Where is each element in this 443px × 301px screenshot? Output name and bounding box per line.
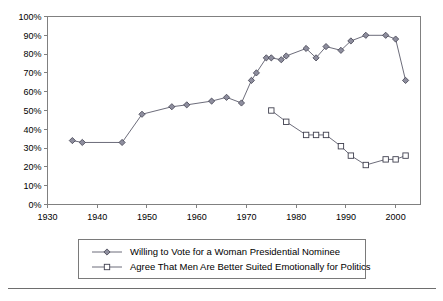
data-point-marker xyxy=(338,144,343,149)
legend-marker xyxy=(104,264,109,269)
data-point-marker xyxy=(403,153,408,158)
data-point-marker xyxy=(303,132,308,137)
data-point-marker xyxy=(269,108,274,113)
legend-label: Willing to Vote for a Woman Presidential… xyxy=(130,246,340,257)
x-tick-label: 1960 xyxy=(187,212,207,222)
x-tick-label: 1940 xyxy=(87,212,107,222)
y-tick-label: 60% xyxy=(23,87,41,97)
y-tick-label: 70% xyxy=(23,68,41,78)
y-tick-label: 30% xyxy=(23,143,41,153)
legend-entry-2: Agree That Men Are Better Suited Emotion… xyxy=(92,261,371,272)
legend-label: Agree That Men Are Better Suited Emotion… xyxy=(130,261,371,272)
data-point-marker xyxy=(323,132,328,137)
data-point-marker xyxy=(313,132,318,137)
y-tick-label: 0% xyxy=(28,200,41,210)
y-tick-label: 50% xyxy=(23,106,41,116)
y-tick-label: 40% xyxy=(23,125,41,135)
chart-figure: 0%10%20%30%40%50%60%70%80%90%100% 193019… xyxy=(0,0,443,301)
y-tick-label: 90% xyxy=(23,31,41,41)
data-point-marker xyxy=(284,119,289,124)
legend-entry-1: Willing to Vote for a Woman Presidential… xyxy=(92,246,340,257)
x-tick-label: 1980 xyxy=(286,212,306,222)
legend-box xyxy=(79,240,366,279)
x-tick-label: 1990 xyxy=(336,212,356,222)
data-point-marker xyxy=(363,162,368,167)
data-point-marker xyxy=(348,153,353,158)
x-tick-label: 1970 xyxy=(236,212,256,222)
x-tick-label: 1950 xyxy=(137,212,157,222)
x-tick-label: 2000 xyxy=(386,212,406,222)
data-point-marker xyxy=(393,157,398,162)
legend: Willing to Vote for a Woman Presidential… xyxy=(79,240,371,279)
x-tick-label: 1930 xyxy=(37,212,57,222)
y-tick-label: 80% xyxy=(23,49,41,59)
y-tick-label: 100% xyxy=(18,12,41,22)
y-tick-label: 10% xyxy=(23,181,41,191)
y-tick-label: 20% xyxy=(23,162,41,172)
data-point-marker xyxy=(383,157,388,162)
